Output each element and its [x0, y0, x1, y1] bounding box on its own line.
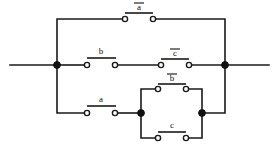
contact-group: [84, 16, 191, 140]
junction-inner-right-node: [199, 110, 206, 117]
junction-left-terminal-node: [54, 62, 61, 69]
bottom-branch-right-riser: [202, 65, 225, 113]
contact-b-bar-left[interactable]: [155, 86, 160, 91]
contact-c-bar-left[interactable]: [158, 62, 163, 67]
top-branch-right-wire: [154, 19, 225, 65]
label-sw-a-bottom: a: [99, 94, 103, 104]
contact-c-left[interactable]: [155, 135, 160, 140]
contact-a-bar-top-left[interactable]: [122, 16, 127, 21]
junction-inner-left-node: [138, 110, 145, 117]
bottom-branch-left-wire: [57, 65, 86, 113]
contact-c-right[interactable]: [183, 135, 188, 140]
contact-a-bar-top-right[interactable]: [150, 16, 155, 21]
contact-b-left[interactable]: [84, 62, 89, 67]
contact-a-right[interactable]: [112, 110, 117, 115]
switching-circuit-svg: a b c a b c: [0, 0, 279, 149]
inner-lower-left-wire: [141, 113, 157, 138]
label-sw-c-inner: c: [170, 120, 174, 130]
junction-right-terminal-node: [222, 62, 229, 69]
contact-a-left[interactable]: [84, 110, 89, 115]
inner-upper-left-wire: [141, 89, 157, 113]
contact-b-right[interactable]: [112, 62, 117, 67]
contact-c-bar-right[interactable]: [186, 62, 191, 67]
inner-upper-right-wire: [187, 89, 202, 113]
wire-group: [10, 19, 269, 138]
circuit-diagram-canvas: a b c a b c: [0, 0, 279, 149]
inner-lower-right-wire: [187, 113, 202, 138]
label-sw-b-middle: b: [99, 46, 104, 56]
contact-b-bar-right[interactable]: [183, 86, 188, 91]
